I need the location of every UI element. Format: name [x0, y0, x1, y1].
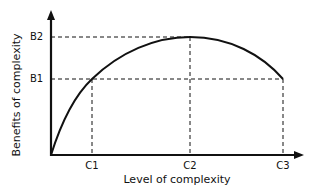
y-tick-b1: B1 [30, 73, 43, 85]
y-axis-arrow-icon [47, 10, 55, 20]
x-axis-arrow-icon [294, 151, 304, 159]
chart-canvas [0, 0, 316, 193]
x-tick-c1: C1 [85, 160, 98, 172]
y-axis-label: Benefits of complexity [11, 33, 23, 156]
y-tick-b2: B2 [30, 31, 43, 43]
x-axis-label: Level of complexity [123, 174, 230, 186]
x-tick-c2: C2 [183, 160, 196, 172]
benefits-curve [51, 37, 283, 155]
x-tick-c3: C3 [276, 160, 289, 172]
